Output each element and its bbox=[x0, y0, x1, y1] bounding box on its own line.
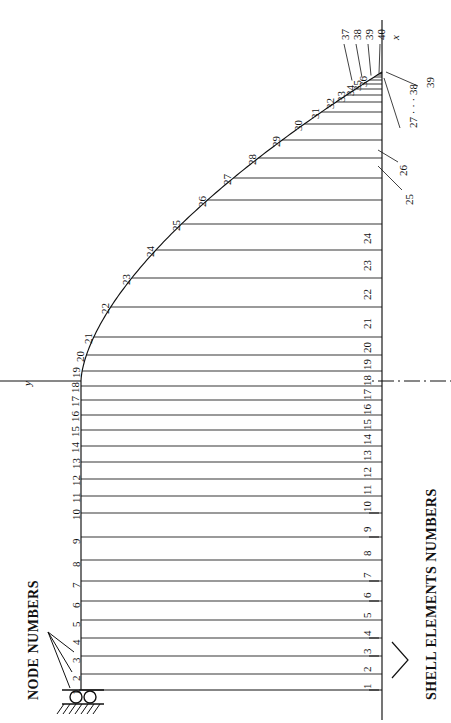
axis-label-y: y bbox=[22, 381, 33, 386]
node-label-18: 18 bbox=[70, 382, 81, 393]
node-numbers-label: NODE NUMBERS bbox=[26, 580, 42, 700]
element-label-14: 14 bbox=[362, 434, 373, 445]
node-label-11: 11 bbox=[71, 492, 82, 503]
axis-label-x: x bbox=[390, 35, 401, 40]
element-label-26: 26 bbox=[398, 165, 409, 176]
node-label-14: 14 bbox=[70, 442, 81, 453]
node-label-5: 5 bbox=[71, 622, 82, 628]
node-label-27: 27 bbox=[222, 174, 233, 185]
element-apex-last-label: 39 bbox=[425, 77, 436, 88]
node-label-7: 7 bbox=[71, 583, 82, 589]
node-label-15: 15 bbox=[70, 426, 81, 437]
node-leader-line-39 bbox=[368, 44, 371, 76]
node-label-36: 36 bbox=[358, 76, 369, 87]
node-leader-line-38 bbox=[356, 44, 362, 78]
element-label-21: 21 bbox=[362, 318, 373, 329]
node-label-37: 37 bbox=[340, 29, 351, 40]
element-label-18: 18 bbox=[362, 375, 373, 386]
node-label-29: 29 bbox=[271, 136, 282, 147]
element-label-7: 7 bbox=[362, 572, 373, 578]
element-label-4: 4 bbox=[362, 631, 373, 637]
node-label-19: 19 bbox=[71, 367, 82, 378]
shell-elements-numbers-label: SHELL ELEMENTS NUMBERS bbox=[424, 488, 440, 700]
node-label-4: 4 bbox=[71, 640, 82, 646]
support-hatch bbox=[57, 704, 64, 714]
element-label-19: 19 bbox=[362, 359, 373, 370]
node-label-13: 13 bbox=[71, 458, 82, 469]
node-label-16: 16 bbox=[70, 411, 81, 422]
node-label-25: 25 bbox=[171, 220, 182, 231]
node-label-31: 31 bbox=[310, 108, 321, 119]
node-label-22: 22 bbox=[100, 303, 111, 314]
element-label-25: 25 bbox=[404, 194, 415, 205]
node-label-28: 28 bbox=[247, 154, 258, 165]
node-label-39: 39 bbox=[364, 29, 375, 40]
shell-elements-brace bbox=[392, 642, 408, 678]
node-label-23: 23 bbox=[121, 274, 132, 285]
element-label-11: 11 bbox=[362, 484, 373, 495]
node-label-2: 2 bbox=[71, 676, 82, 682]
element-label-20: 20 bbox=[362, 342, 373, 353]
element-label-15: 15 bbox=[362, 419, 373, 430]
element-label-13: 13 bbox=[362, 450, 373, 461]
node-label-20: 20 bbox=[75, 351, 86, 362]
support-hatch bbox=[63, 704, 70, 714]
node-leader-line-37 bbox=[344, 44, 352, 81]
support-hatch bbox=[93, 704, 100, 714]
mesh-drawing bbox=[0, 0, 451, 723]
element-label-23: 23 bbox=[362, 260, 373, 271]
node-label-26: 26 bbox=[197, 196, 208, 207]
node-label-1: 1 bbox=[71, 690, 82, 696]
element-label-5: 5 bbox=[362, 612, 373, 618]
support-hatch bbox=[69, 704, 76, 714]
node-numbers-leader-2 bbox=[48, 632, 72, 672]
node-label-9: 9 bbox=[71, 539, 82, 545]
element-label-22: 22 bbox=[362, 289, 373, 300]
element-label-9: 9 bbox=[362, 527, 373, 533]
support-hatch bbox=[87, 704, 94, 714]
node-label-12: 12 bbox=[71, 475, 82, 486]
element-apex-group-label: 27 · · · 38 bbox=[408, 84, 419, 128]
roller-circle-right bbox=[84, 691, 96, 703]
element-label-12: 12 bbox=[362, 467, 373, 478]
support-hatch bbox=[81, 704, 88, 714]
element-leader-line-group bbox=[384, 78, 400, 128]
element-label-2: 2 bbox=[362, 667, 373, 673]
node-label-10: 10 bbox=[71, 509, 82, 520]
node-label-6: 6 bbox=[71, 603, 82, 609]
node-label-3: 3 bbox=[71, 658, 82, 664]
node-leader-line-40 bbox=[379, 44, 380, 74]
node-label-24: 24 bbox=[145, 246, 156, 257]
element-label-6: 6 bbox=[362, 593, 373, 599]
support-hatch bbox=[75, 704, 82, 714]
element-leader-line-26 bbox=[378, 150, 398, 162]
node-label-30: 30 bbox=[293, 120, 304, 131]
element-label-17: 17 bbox=[362, 389, 373, 400]
node-label-38: 38 bbox=[352, 29, 363, 40]
element-label-24: 24 bbox=[362, 233, 373, 244]
node-label-8: 8 bbox=[71, 562, 82, 568]
node-label-40: 40 bbox=[376, 29, 387, 40]
figure-canvas: x y NODE NUMBERS SHELL ELEMENTS NUMBERS … bbox=[0, 0, 451, 723]
node-label-21: 21 bbox=[83, 333, 94, 344]
element-label-8: 8 bbox=[362, 550, 373, 556]
node-label-17: 17 bbox=[70, 396, 81, 407]
element-label-3: 3 bbox=[362, 649, 373, 655]
element-label-1: 1 bbox=[362, 684, 373, 690]
element-label-16: 16 bbox=[362, 404, 373, 415]
shell-profile-curve bbox=[81, 72, 382, 690]
element-label-10: 10 bbox=[362, 501, 373, 512]
